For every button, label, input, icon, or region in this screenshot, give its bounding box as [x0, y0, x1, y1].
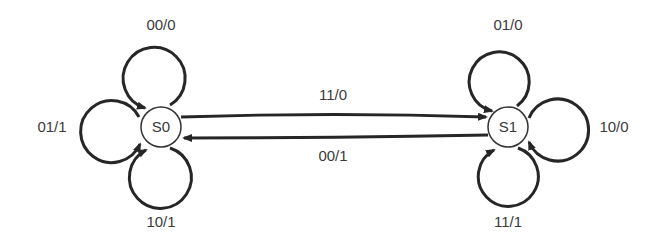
label-s0-top: 00/0: [146, 16, 175, 33]
s0-loop-left: [81, 101, 140, 163]
edge-s0-to-s1: [181, 115, 486, 118]
state-s1: S1: [488, 107, 528, 147]
label-s0-left: 01/1: [37, 118, 66, 135]
state-diagram: S0 S1 00/0 01/1 10/1 11/0 00/1 01/0 10/0…: [0, 0, 662, 240]
s1-loop-right: [529, 99, 589, 161]
label-s0-bottom: 10/1: [146, 213, 175, 230]
label-s1-bottom: 11/1: [494, 213, 522, 230]
s0-loop-top: [123, 47, 185, 108]
s1-loop-bottom: [478, 148, 538, 206]
s1-loop-top: [469, 52, 529, 111]
label-s1-right: 10/0: [599, 118, 628, 135]
state-s0: S0: [141, 107, 181, 147]
label-s1-to-s0: 00/1: [318, 147, 347, 164]
s0-loop-bottom: [129, 148, 191, 208]
label-s1-top: 01/0: [493, 16, 522, 33]
state-s0-label: S0: [152, 118, 170, 135]
edge-s1-to-s0: [184, 135, 488, 138]
label-s0-to-s1: 11/0: [319, 86, 347, 103]
state-s1-label: S1: [499, 118, 517, 135]
